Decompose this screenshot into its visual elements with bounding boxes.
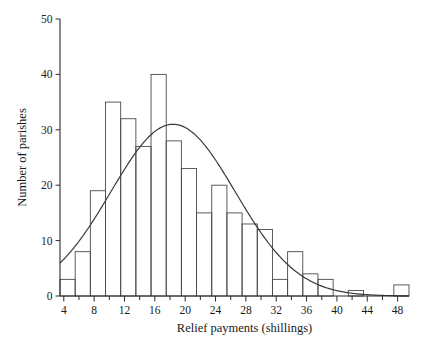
histogram-bar xyxy=(197,213,212,296)
histogram-bar xyxy=(136,146,151,296)
x-tick-label: 40 xyxy=(331,304,343,316)
x-tick-label: 36 xyxy=(301,304,313,316)
histogram-bar xyxy=(60,279,75,296)
x-tick-label: 48 xyxy=(392,304,404,316)
histogram-bar xyxy=(181,169,196,296)
chart-canvas: 01020304050 4812162024283236404448 Relie… xyxy=(0,0,423,352)
x-tick-label: 4 xyxy=(61,304,67,316)
histogram-bar xyxy=(394,285,409,296)
normal-curve-path xyxy=(60,124,409,296)
x-axis-ticks: 4812162024283236404448 xyxy=(61,296,404,316)
histogram-bar xyxy=(121,119,136,296)
x-tick-label: 12 xyxy=(119,304,131,316)
histogram-bar xyxy=(151,74,166,296)
y-tick-label: 30 xyxy=(41,124,53,136)
histogram-chart: 01020304050 4812162024283236404448 Relie… xyxy=(0,0,423,352)
histogram-bar xyxy=(75,252,90,296)
histogram-bar xyxy=(166,141,181,296)
x-tick-label: 44 xyxy=(362,304,374,316)
y-tick-label: 50 xyxy=(41,13,53,25)
histogram-bar xyxy=(227,213,242,296)
histogram-bar xyxy=(303,274,318,296)
x-axis-title: Relief payments (shillings) xyxy=(177,321,312,335)
y-tick-label: 0 xyxy=(47,290,53,302)
normal-curve-overlay xyxy=(60,124,409,296)
histogram-bar xyxy=(257,230,272,296)
x-tick-label: 32 xyxy=(270,304,282,316)
histogram-bar xyxy=(90,191,105,296)
x-tick-label: 8 xyxy=(91,304,97,316)
y-axis-ticks: 01020304050 xyxy=(41,13,60,302)
x-tick-label: 28 xyxy=(240,304,252,316)
x-tick-label: 16 xyxy=(149,304,161,316)
histogram-bar xyxy=(212,185,227,296)
x-tick-label: 20 xyxy=(179,304,191,316)
x-tick-label: 24 xyxy=(210,304,222,316)
y-tick-label: 10 xyxy=(41,235,53,247)
histogram-bar xyxy=(272,279,287,296)
y-tick-label: 20 xyxy=(41,179,53,191)
y-axis-title: Number of parishes xyxy=(15,108,29,207)
axes-group xyxy=(60,19,409,296)
bars-group xyxy=(60,74,409,296)
y-tick-label: 40 xyxy=(41,68,53,80)
histogram-bar xyxy=(288,252,303,296)
histogram-bar xyxy=(242,224,257,296)
histogram-bar xyxy=(106,102,121,296)
